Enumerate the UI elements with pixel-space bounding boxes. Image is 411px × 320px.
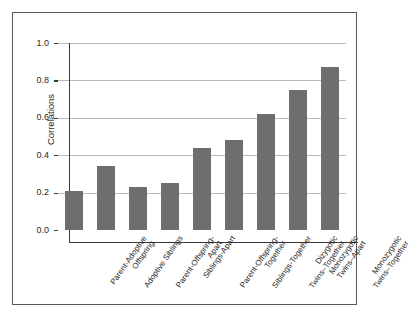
y-tick-label: 0.2 bbox=[25, 188, 49, 197]
bar-chart: 0.00.20.40.60.81.0 Correlations Parent-A… bbox=[13, 13, 356, 304]
bar bbox=[289, 90, 307, 230]
bar bbox=[193, 148, 211, 230]
bar bbox=[65, 191, 83, 230]
y-tick-label: 1.0 bbox=[25, 39, 49, 48]
gridline bbox=[58, 43, 346, 44]
y-axis-title: Correlations bbox=[45, 75, 56, 165]
bar bbox=[321, 67, 339, 230]
bar bbox=[161, 183, 179, 230]
bar bbox=[129, 187, 147, 230]
gridline bbox=[58, 80, 346, 81]
figure-frame: 0.00.20.40.60.81.0 Correlations Parent-A… bbox=[12, 12, 357, 305]
x-tick-label: MonozygoticTwins–Together bbox=[364, 234, 411, 290]
bar bbox=[97, 166, 115, 230]
y-tick-mark bbox=[54, 193, 58, 194]
bar bbox=[225, 140, 243, 230]
bar bbox=[257, 114, 275, 230]
y-tick-mark bbox=[54, 43, 58, 44]
y-tick-mark bbox=[54, 230, 58, 231]
y-tick-label: 0.0 bbox=[25, 226, 49, 235]
